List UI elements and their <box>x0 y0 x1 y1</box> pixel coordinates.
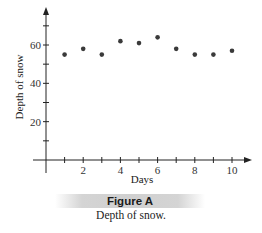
x-axis-title: Days <box>131 173 154 185</box>
data-points <box>62 35 234 57</box>
figure-caption: Depth of snow. <box>0 209 262 221</box>
data-point <box>230 48 235 53</box>
y-tick-label: 60 <box>30 39 42 51</box>
data-point <box>155 35 160 40</box>
x-tick-label: 10 <box>227 164 239 176</box>
data-point <box>62 52 67 57</box>
x-tick-label: 4 <box>118 164 124 176</box>
x-axis-arrow-icon <box>244 157 252 163</box>
x-tick-label: 8 <box>192 164 198 176</box>
x-tick-label: 2 <box>80 164 86 176</box>
data-point <box>137 41 142 46</box>
data-point <box>211 52 216 57</box>
figure-label-banner: Figure A <box>55 194 205 208</box>
data-point <box>193 52 198 57</box>
x-tick-label: 6 <box>155 164 161 176</box>
data-point <box>174 47 179 52</box>
y-tick-label: 40 <box>30 77 42 89</box>
figure-label: Figure A <box>107 195 153 207</box>
y-tick-label: 20 <box>30 116 42 128</box>
axes <box>33 7 252 173</box>
data-point <box>118 39 123 44</box>
data-point <box>100 52 105 57</box>
data-point <box>81 47 86 52</box>
y-axis-arrow-icon <box>43 7 49 15</box>
scatter-chart: 246810 204060 Days Depth of snow <box>0 0 262 190</box>
y-axis-title: Depth of snow <box>13 55 25 120</box>
